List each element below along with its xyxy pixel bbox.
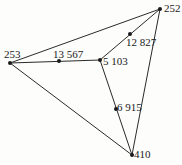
edge-252-410 bbox=[132, 9, 160, 155]
label-410: 410 bbox=[134, 148, 151, 160]
label-253: 253 bbox=[4, 48, 21, 60]
graph-diagram: 252 253 5 103 13 567 12 827 6 915 410 bbox=[0, 0, 182, 165]
edge-253-5103 bbox=[10, 60, 100, 63]
label-6915: 6 915 bbox=[117, 101, 142, 113]
edge-253-410 bbox=[10, 63, 132, 155]
node-252 bbox=[158, 7, 162, 11]
label-13567: 13 567 bbox=[53, 48, 84, 60]
label-252: 252 bbox=[164, 2, 181, 14]
label-12827: 12 827 bbox=[126, 36, 157, 48]
nodes bbox=[8, 7, 162, 157]
node-253 bbox=[8, 61, 12, 65]
label-5103: 5 103 bbox=[103, 55, 128, 67]
edges bbox=[10, 9, 160, 155]
node-5103 bbox=[98, 58, 102, 62]
labels: 252 253 5 103 13 567 12 827 6 915 410 bbox=[4, 2, 181, 160]
